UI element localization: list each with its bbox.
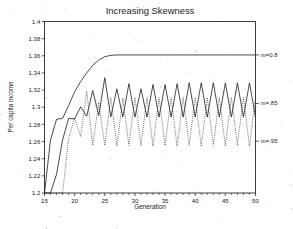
x-tick-label: 50: [252, 197, 259, 204]
x-axis-label: Generation: [134, 203, 166, 210]
series-annotation-0: m=0.8: [261, 52, 279, 58]
series-line-2: [45, 91, 256, 193]
series-layer: [45, 55, 256, 193]
x-tick-label: 20: [71, 197, 78, 204]
line-chart: Increasing Skewness 1.21.221.241.261.281…: [0, 0, 293, 229]
series-annotation-1: m=.85: [261, 100, 279, 106]
y-tick-label: 1.24: [28, 155, 40, 162]
y-tick-label: 1.4: [32, 18, 41, 25]
y-tick-label: 1.32: [28, 86, 40, 93]
y-tick-label: 1.2: [32, 189, 41, 196]
x-tick-label: 25: [101, 197, 108, 204]
y-tick-label: 1.28: [28, 121, 40, 128]
x-tick-label: 15: [41, 197, 48, 204]
y-tick-label: 1.26: [28, 138, 40, 145]
chart-figure: Increasing Skewness 1.21.221.241.261.281…: [0, 0, 293, 229]
y-tick-label: 1.38: [28, 35, 40, 42]
y-axis-label: Per capita income: [7, 81, 15, 133]
y-axis-ticks: 1.21.221.241.261.281.31.321.341.361.381.…: [28, 18, 44, 197]
series-annotations: m=0.8m=.85m=.95: [256, 52, 279, 144]
x-tick-label: 45: [222, 197, 229, 204]
y-tick-label: 1.34: [28, 69, 40, 76]
chart-title: Increasing Skewness: [106, 5, 195, 16]
y-tick-label: 1.22: [28, 172, 40, 179]
series-line-1: [45, 78, 256, 193]
y-tick-label: 1.3: [32, 103, 41, 110]
plot-frame: [45, 22, 256, 194]
series-annotation-2: m=.95: [261, 138, 279, 144]
x-tick-label: 40: [192, 197, 199, 204]
y-tick-label: 1.36: [28, 52, 40, 59]
